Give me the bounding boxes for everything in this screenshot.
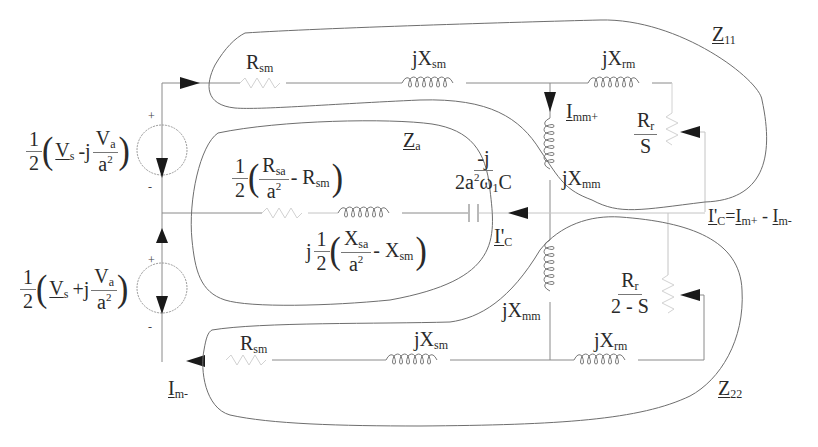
minus-sign-lower: - <box>148 320 152 335</box>
label-jxmm-top: jXmm <box>562 168 601 190</box>
label-imm-plus: Imm+ <box>566 101 598 123</box>
label-rr-over-2-minus-s: Rr2 - S <box>608 270 652 317</box>
resistor-rsm-bottom <box>226 355 266 365</box>
label-capacitor-expr: -j2a2ω1C <box>452 148 515 195</box>
label-jxsm-top: jXsm <box>412 48 446 70</box>
inductor-jxmm-bottom <box>544 240 554 291</box>
inductor-jxsm-top <box>402 77 453 87</box>
label-z11: Z11 <box>712 24 736 46</box>
arrow-left-bus-up <box>156 228 168 243</box>
label-jxsm-bottom: jXsm <box>414 329 448 351</box>
arrow-rotor-bottom <box>680 289 700 301</box>
resistor-rr-s <box>666 83 678 145</box>
circuit-diagram <box>0 0 818 447</box>
label-jxmm-bottom: jXmm <box>502 300 541 322</box>
label-za-resistor-expr: 12 ( Rsaa2 - Rsm ) <box>232 155 343 202</box>
inductor-jxmm-top <box>544 118 554 169</box>
label-rr-over-s: RrS <box>634 110 657 157</box>
label-z22: Z22 <box>718 378 742 400</box>
resistor-za <box>262 208 302 218</box>
inductor-jxrm-bottom <box>574 354 625 364</box>
arrow-ic <box>508 207 528 219</box>
arrow-imm-plus <box>544 92 556 112</box>
label-im-minus: Im- <box>168 378 188 400</box>
inductor-jxsm-bottom <box>386 354 437 364</box>
resistor-rr-2-s <box>662 275 674 313</box>
label-ic-relation: I'C=Im+ - Im- <box>708 207 792 227</box>
label-ic: I'C <box>494 226 512 248</box>
minus-sign-upper: - <box>148 180 152 195</box>
arrow-source-lower <box>156 296 168 314</box>
plus-sign-lower: + <box>148 253 155 268</box>
plus-sign-upper: + <box>148 109 155 124</box>
upper-source-expression: 12 ( Vs -j Vaa2 ) <box>26 128 130 175</box>
label-za: Za <box>403 130 421 152</box>
arrow-top-current <box>180 77 200 89</box>
label-rsm-bottom: Rsm <box>240 333 267 355</box>
inductor-za <box>338 207 389 217</box>
lower-source-expression: 12 ( Vs +j Vaa2 ) <box>20 266 128 313</box>
loop-z22 <box>203 217 742 426</box>
label-rsm-top: Rsm <box>246 52 273 74</box>
arrow-rotor-top <box>680 126 700 138</box>
resistor-rsm-top <box>240 78 280 88</box>
label-za-inductor-expr: j 12 ( Xsaa2 - Xsm ) <box>304 228 427 275</box>
inductor-jxrm-top <box>588 77 639 87</box>
label-jxrm-bottom: jXrm <box>594 330 627 352</box>
label-jxrm-top: jXrm <box>602 48 635 70</box>
